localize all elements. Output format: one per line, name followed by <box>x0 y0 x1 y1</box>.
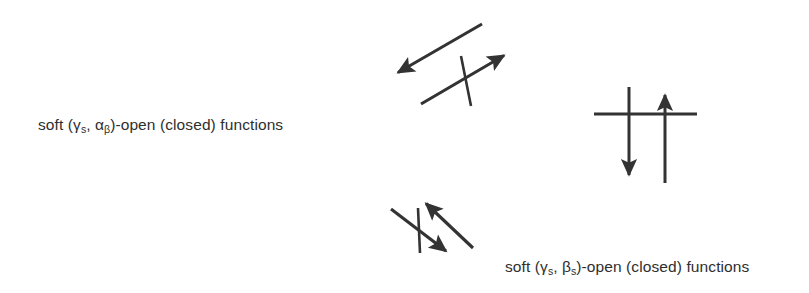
alpha-label-prefix: soft ( <box>38 116 73 133</box>
beta-label-gamma-subscript: s <box>548 265 553 277</box>
lower-left-diagonal-pair <box>391 204 473 254</box>
alpha-label-gamma-subscript: s <box>81 123 86 135</box>
beta-label-suffix: )-open (closed) functions <box>576 258 749 275</box>
beta-label-symbol: β <box>562 258 571 275</box>
alpha-label-gamma: γ <box>73 116 81 133</box>
soft-gamma-alpha-functions-label: soft (γs, αβ)-open (closed) functions <box>38 117 283 133</box>
beta-label-prefix: soft ( <box>505 258 540 275</box>
upper-left-diagonal-pair <box>398 24 504 106</box>
arrow-up-left <box>398 24 482 73</box>
soft-gamma-beta-functions-label: soft (γs, βs)-open (closed) functions <box>505 259 749 275</box>
beta-label-gamma: γ <box>540 258 548 275</box>
negation-stroke-lower <box>418 208 420 253</box>
beta-label-separator: , <box>553 258 562 275</box>
alpha-label-symbol: α <box>95 116 104 133</box>
alpha-label-symbol-subscript: β <box>104 123 110 135</box>
right-vertical-pair <box>594 87 697 183</box>
arrow-diagram-layer <box>0 0 809 293</box>
alpha-label-suffix: )-open (closed) functions <box>110 116 283 133</box>
alpha-label-separator: , <box>86 116 95 133</box>
implication-diagram-figure: soft (γs, αβ)-open (closed) functions so… <box>0 0 809 293</box>
beta-label-symbol-subscript: s <box>571 265 576 277</box>
